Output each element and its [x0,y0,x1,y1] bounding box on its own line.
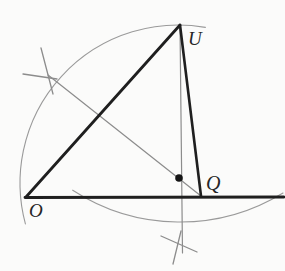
tick-mark-bottom-steep [173,231,181,264]
tick-marks-group [23,48,197,264]
construction-figure: O U Q [0,0,285,271]
dot-group [175,174,183,182]
construction-line-through-U-vertical [180,25,183,253]
base-line [25,197,284,198]
segment-O-U [26,25,180,197]
label-U: U [188,28,203,49]
label-Q: Q [206,172,221,194]
construction-canvas: O U Q [0,0,285,271]
label-O: O [29,200,43,221]
large-compass-arc [20,25,205,224]
triangle-segments-group [25,25,284,198]
segment-U-Q [180,25,201,196]
tick-mark-upper-left-steep [41,48,53,94]
construction-lines-group [48,25,201,253]
intersection-point-dot [175,174,183,182]
lower-compass-arc [73,190,283,222]
tick-mark-upper-left-shallow [23,74,57,79]
